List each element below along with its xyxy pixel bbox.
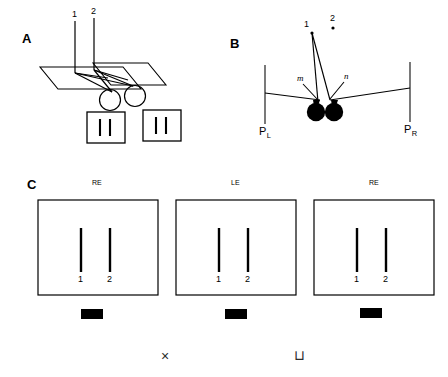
panel-c-view-2-eye-label: LE — [231, 179, 240, 186]
figure-container: A — [0, 0, 448, 377]
panel-c-view-1-eye-label: RE — [92, 179, 102, 186]
panel-c-view-1-bar-label-2: 2 — [107, 275, 112, 284]
panel-c-view-2-bar-label-2: 2 — [245, 275, 250, 284]
panel-c-fixation-marker-2 — [225, 309, 247, 319]
panel-c-fixation-marker-3 — [360, 308, 382, 318]
panel-c-fixation-marker-1 — [81, 309, 103, 319]
panel-c-view-3-bar-label-1: 1 — [354, 275, 359, 284]
fusion-symbol-parallel: ⊔ — [294, 348, 305, 362]
fusion-symbol-cross: × — [161, 349, 169, 363]
panel-c-view-3-eye-label: RE — [369, 179, 379, 186]
panel-c-view-3-bar-label-2: 2 — [383, 275, 388, 284]
panel-c-drawing — [0, 0, 448, 377]
panel-c-view-2-bar-label-1: 1 — [216, 275, 221, 284]
panel-c-view-1-bar-label-1: 1 — [78, 275, 83, 284]
